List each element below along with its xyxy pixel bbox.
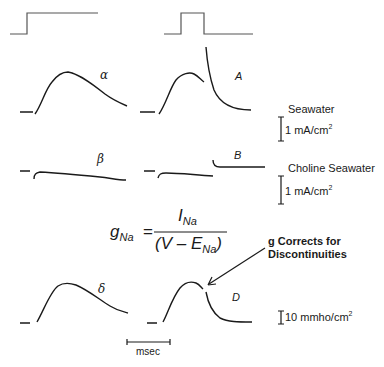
time-scale-bar [127, 339, 170, 345]
choline-scale-label: 1 mA/cm2 [285, 184, 332, 197]
trace-A-tail [206, 47, 251, 110]
label-B: B [234, 149, 241, 161]
trace-beta [20, 171, 126, 180]
equation-lhs: gNa [110, 222, 134, 243]
time-scale-label: msec [136, 346, 160, 357]
trace-B-rise [144, 171, 213, 178]
label-A: A [235, 70, 242, 82]
voltage-step-long [10, 13, 98, 34]
trace-delta [20, 283, 128, 323]
label-beta: β [97, 152, 104, 166]
trace-alpha [20, 72, 127, 114]
equation-equals: = [143, 222, 153, 242]
equation-numerator: INa [178, 206, 197, 227]
seawater-label: Seawater [288, 103, 334, 115]
arrow-head-icon [208, 277, 216, 285]
conductance-scale-bar [278, 311, 284, 324]
trace-D-rise [147, 282, 203, 323]
trace-D-tail [206, 292, 252, 322]
choline-label: Choline Seawater [288, 162, 375, 174]
conductance-scale-label: 10 mmho/cm2 [285, 310, 352, 323]
trace-A-rise [140, 73, 204, 114]
annotation-text: g Corrects for Discontinuities [268, 235, 347, 261]
equation-denominator: (V – ENa) [155, 234, 222, 255]
label-delta: δ [98, 282, 105, 296]
seawater-scale-label: 1 mA/cm2 [285, 123, 332, 136]
trace-B-tail [213, 160, 265, 167]
label-alpha: α [100, 68, 108, 82]
seawater-scale-bar [278, 117, 284, 141]
choline-scale-bar [278, 176, 284, 204]
label-D: D [232, 291, 240, 303]
voltage-step-short [164, 13, 253, 34]
